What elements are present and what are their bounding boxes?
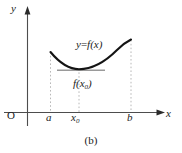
y-axis-label: y <box>11 3 16 14</box>
y-axis <box>25 6 31 126</box>
figure-container: y x O a x0 b y=f(x) f(x0) (b) <box>0 0 182 153</box>
minimum-value-close: ) <box>88 77 92 89</box>
y-axis-arrowhead <box>25 6 31 15</box>
tick-label-b: b <box>127 112 133 123</box>
x-axis-arrowhead <box>157 110 166 116</box>
origin-label: O <box>7 110 15 121</box>
tick-label-x0-subscript: 0 <box>76 117 80 125</box>
minimum-value-label: f(x0) <box>73 78 92 91</box>
curve-equation-label: y=f(x) <box>76 39 102 50</box>
x-axis <box>4 110 165 116</box>
x-axis-label: x <box>166 108 171 119</box>
curve-equation-rhs: f(x) <box>87 38 102 50</box>
figure-caption: (b) <box>0 134 182 146</box>
tick-label-x0: x0 <box>71 112 79 125</box>
minimum-value-base: f(x <box>73 77 85 89</box>
tick-label-a: a <box>46 112 52 123</box>
